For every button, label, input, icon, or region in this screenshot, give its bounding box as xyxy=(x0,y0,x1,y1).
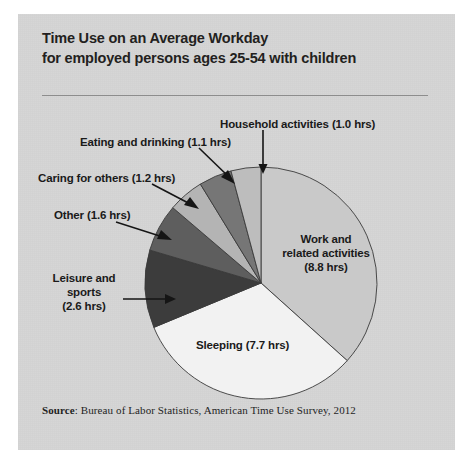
slice-label-sleeping: Sleeping (7.7 hrs) xyxy=(196,338,289,352)
slice-label-caring: Caring for others (1.2 hrs) xyxy=(38,171,175,185)
slice-label-work-line1: Work and xyxy=(301,233,352,245)
slice-label-leisure-line1: Leisure and sports xyxy=(53,272,116,298)
slice-label-other: Other (1.6 hrs) xyxy=(54,208,130,222)
slice-label-work: Work and related activities (8.8 hrs) xyxy=(264,232,388,274)
slice-label-work-line2: related activities xyxy=(282,247,369,259)
pie-chart: Household activities (1.0 hrs) Eating an… xyxy=(18,14,455,450)
slice-label-work-value: (8.8 hrs) xyxy=(304,261,347,273)
source-text: Bureau of Labor Statistics, American Tim… xyxy=(81,404,356,416)
slice-label-leisure-line2: (2.6 hrs) xyxy=(62,300,105,312)
slice-label-leisure: Leisure and sports (2.6 hrs) xyxy=(36,271,132,313)
slice-label-household: Household activities (1.0 hrs) xyxy=(220,117,375,131)
page-root: Time Use on an Average Workday for emplo… xyxy=(0,0,476,469)
source-label: Source xyxy=(42,404,75,416)
pie-slices xyxy=(145,167,377,399)
pie-chart-svg xyxy=(18,14,455,450)
source-note: Source: Bureau of Labor Statistics, Amer… xyxy=(42,404,432,416)
slice-label-eating: Eating and drinking (1.1 hrs) xyxy=(80,135,231,149)
